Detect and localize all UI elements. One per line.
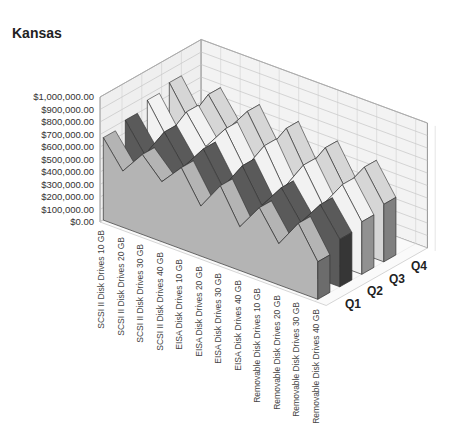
depth-label-Q2: Q2 — [367, 284, 383, 298]
y-tick-label: $200,000.00 — [4, 191, 94, 202]
x-tick-label: EISA Disk Drives 40 GB — [233, 280, 243, 371]
y-tick-label: $900,000.00 — [4, 104, 94, 115]
x-tick-label: EISA Disk Drives 10 GB — [174, 259, 184, 350]
y-tick-label: $500,000.00 — [4, 154, 94, 165]
y-tick-label: $300,000.00 — [4, 179, 94, 190]
x-tick-label: SCSI II Disk Drives 30 GB — [135, 244, 145, 343]
x-tick-label: SCSI II Disk Drives 20 GB — [116, 237, 126, 336]
x-tick-label: Removable Disk Drives 10 GB — [252, 288, 262, 403]
x-tick-label: EISA Disk Drives 20 GB — [194, 266, 204, 357]
depth-label-Q4: Q4 — [411, 259, 427, 273]
y-tick-label: $700,000.00 — [4, 129, 94, 140]
x-tick-label: Removable Disk Drives 30 GB — [291, 302, 301, 417]
x-tick-label: SCSI II Disk Drives 40 GB — [155, 252, 165, 351]
y-tick-label: $0.00 — [4, 216, 94, 227]
y-tick-label: $400,000.00 — [4, 166, 94, 177]
depth-label-Q1: Q1 — [345, 297, 361, 311]
y-tick-label: $100,000.00 — [4, 204, 94, 215]
x-tick-label: SCSI II Disk Drives 10 GB — [96, 230, 106, 329]
y-tick-label: $1,000,000.00 — [4, 91, 94, 102]
y-tick-label: $600,000.00 — [4, 141, 94, 152]
x-tick-label: Removable Disk Drives 40 GB — [311, 309, 321, 424]
x-tick-label: EISA Disk Drives 30 GB — [213, 273, 223, 364]
x-tick-label: Removable Disk Drives 20 GB — [272, 295, 282, 410]
y-tick-label: $800,000.00 — [4, 116, 94, 127]
depth-label-Q3: Q3 — [389, 272, 405, 286]
